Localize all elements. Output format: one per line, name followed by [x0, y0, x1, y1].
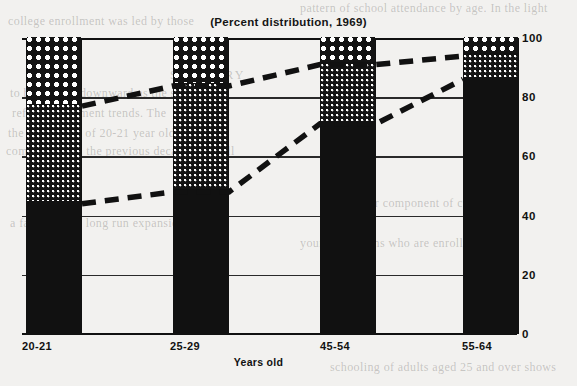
- trend-line-overlay: [22, 38, 517, 334]
- x-tick-label-20-21: 20-21: [22, 340, 52, 352]
- x-tick-label-25-29: 25-29: [170, 340, 200, 352]
- x-axis-title: Years old: [0, 356, 517, 368]
- upper-dashed-trend-line: [82, 56, 463, 106]
- lower-dashed-trend-line: [82, 79, 463, 203]
- chart-title: (Percent distribution, 1969): [0, 16, 577, 28]
- x-tick-label-45-54: 45-54: [320, 340, 350, 352]
- stacked-bar-chart-figure: (Percent distribution, 1969): [0, 0, 577, 386]
- x-tick-label-55-64: 55-64: [462, 340, 492, 352]
- y-tick-label-20: 20: [522, 269, 536, 281]
- y-tick-label-60: 60: [522, 150, 536, 162]
- y-tick-label-40: 40: [522, 210, 536, 222]
- y-tick-label-0: 0: [522, 328, 529, 340]
- plot-area: [22, 38, 517, 334]
- y-tick-label-100: 100: [522, 32, 543, 44]
- y-tick-label-80: 80: [522, 91, 536, 103]
